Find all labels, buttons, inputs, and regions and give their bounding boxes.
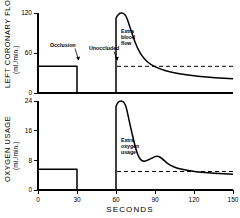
top-ytick-label-60: 60 <box>25 49 33 56</box>
xtick-label-0: 0 <box>36 196 40 203</box>
top-annot-extra-blood-flow-line3: flow <box>121 40 132 46</box>
figure-container: 120 60 0 LEFT CORONARY FLOW (ml./min.) O… <box>0 0 240 218</box>
coronary-flow-oxygen-figure: 120 60 0 LEFT CORONARY FLOW (ml./min.) O… <box>0 0 240 218</box>
top-annot-occlusion: Occlusion <box>50 42 76 48</box>
top-panel: 120 60 0 LEFT CORONARY FLOW (ml./min.) O… <box>3 0 233 96</box>
top-annot-unoccluded: Unoccluded <box>89 45 119 51</box>
top-axis-title: LEFT CORONARY FLOW <box>3 0 12 88</box>
bottom-axis-title: OXYGEN USAGE <box>3 116 12 182</box>
bottom-panel: 24 16 8 0 OXYGEN USAGE (ml./min.) Extra … <box>3 97 233 193</box>
bottom-ytick-label-16: 16 <box>25 127 33 134</box>
bottom-ytick-label-0: 0 <box>28 186 32 193</box>
bottom-annot-extra-oxygen-usage-line3: usage <box>121 149 136 155</box>
x-axis-group: 0 30 60 90 120 150 SECONDS <box>36 190 239 214</box>
xtick-label-30: 30 <box>73 196 81 203</box>
top-occlusion-arrowhead <box>76 57 80 61</box>
xtick-label-60: 60 <box>112 196 120 203</box>
top-ytick-label-0: 0 <box>28 89 32 96</box>
xtick-label-120: 120 <box>189 196 200 203</box>
xtick-label-90: 90 <box>151 196 159 203</box>
xtick-label-150: 150 <box>228 196 239 203</box>
bottom-axis-units: (ml./min.) <box>12 141 20 170</box>
bottom-ytick-label-24: 24 <box>25 97 33 104</box>
top-ytick-label-120: 120 <box>21 9 32 16</box>
top-flow-trace <box>38 13 233 93</box>
bottom-ytick-label-8: 8 <box>28 157 32 164</box>
x-axis-title: SECONDS <box>106 205 153 214</box>
top-axis-units: (ml./min.) <box>12 45 20 74</box>
